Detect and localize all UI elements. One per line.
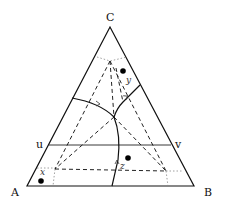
dotted-top-lines [97, 57, 127, 61]
point-x-dot [38, 178, 44, 184]
isotherm-label-v: v [174, 138, 182, 151]
dashed-tie-lines [55, 61, 166, 171]
dotted-left-vertical [53, 169, 55, 186]
point-z-dot [125, 155, 131, 161]
triangle-outline [27, 27, 194, 186]
ternary-diagram: C A B u v y x z [0, 0, 226, 203]
point-label-z: z [119, 161, 125, 171]
vertex-label-a: A [10, 186, 20, 199]
dotted-right-vertical [166, 171, 168, 186]
isotherm-label-u: u [36, 138, 43, 151]
point-label-y: y [125, 75, 132, 85]
vertex-label-b: B [204, 186, 212, 199]
vertex-label-c: C [106, 11, 114, 24]
point-label-x: x [40, 167, 45, 177]
point-y-dot [120, 68, 126, 74]
